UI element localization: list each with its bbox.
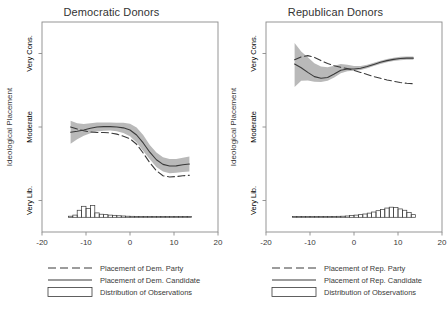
histogram-bar [68,216,72,217]
histogram-bar [134,216,138,217]
histogram-bar [174,217,178,218]
legend-svg-democratic: Placement of Dem. PartyPlacement of Dem.… [0,258,223,306]
histogram-bar [148,217,152,218]
histogram-bar [389,207,393,217]
histogram-bar [292,217,296,218]
histogram-bar [385,208,389,217]
histogram-bar [178,217,182,218]
histogram-bar [297,217,301,218]
histogram-bar [341,216,345,217]
x-tick-label: -20 [36,238,48,247]
histogram-bar [152,217,156,218]
y-tick-label: Very Cons. [249,35,258,72]
histogram-bar [143,217,147,218]
histogram-bar [354,215,358,217]
histogram-bar [350,216,354,218]
histogram-bar [165,217,169,218]
histogram-bar [358,215,362,218]
legend-democratic: Placement of Dem. PartyPlacement of Dem.… [0,258,223,306]
x-tick-label: 0 [128,238,133,247]
histogram-bar [363,214,367,217]
histogram-bar [90,205,94,217]
histogram-bar [77,210,81,217]
histogram-bar [86,209,90,218]
x-tick-label: 0 [352,238,357,247]
histogram-bar [139,217,143,218]
panel-democratic-donors: Democratic Donors Ideological PlacementV… [0,0,223,311]
histogram-bar [328,217,332,218]
histogram-bar [161,217,165,218]
legend-distribution-label: Distribution of Observations [324,288,416,297]
legend-candidate-label: Placement of Rep. Candidate [324,276,422,285]
histogram-bar [380,209,384,217]
histogram-bar [187,217,191,218]
histogram-bar [95,213,99,217]
histogram-bar [183,217,187,218]
x-tick-label: -10 [80,238,92,247]
legend-republican: Placement of Rep. PartyPlacement of Rep.… [224,258,447,306]
x-tick-label: 20 [214,238,223,247]
plot-area-democratic: Ideological PlacementVery Cons.ModerateV… [0,0,223,258]
histogram-bar [306,217,310,218]
confidence-band [295,43,414,87]
histogram-bar [117,216,121,218]
y-tick-label: Very Cons. [25,35,34,72]
histogram-bar [82,206,86,217]
histogram-bar [156,217,160,218]
histogram-bar [345,216,349,217]
histogram-bar [108,215,112,217]
x-tick-label: 10 [170,238,179,247]
x-tick-label: -20 [260,238,272,247]
histogram-bar [130,216,134,217]
histogram-bar [372,212,376,217]
legend-swatch-box [272,288,316,297]
legend-swatch-box [48,288,92,297]
histogram-bar [332,216,336,217]
histogram-bar [73,215,77,217]
y-tick-label: Very Lib. [25,186,34,215]
histogram-bar [314,217,318,218]
histogram-bar [376,211,380,218]
histogram-bar [367,213,371,217]
histogram-bar [121,216,125,217]
legend-party-label: Placement of Rep. Party [324,264,406,273]
histogram-bar [398,209,402,217]
panel-republican-donors: Republican Donors Ideological PlacementV… [224,0,447,311]
legend-distribution-label: Distribution of Observations [100,288,192,297]
histogram-bar [394,208,398,218]
histogram-bar [407,212,411,217]
histogram-bar [301,217,305,218]
histogram-bar [112,215,116,217]
y-axis-title: Ideological Placement [5,87,14,166]
figure-twin-panel-chart: Democratic Donors Ideological PlacementV… [0,0,447,311]
legend-candidate-label: Placement of Dem. Candidate [100,276,200,285]
y-tick-label: Moderate [25,111,34,143]
histogram-bar [402,210,406,217]
x-tick-label: -10 [304,238,316,247]
y-axis-title: Ideological Placement [229,87,238,166]
legend-party-label: Placement of Dem. Party [100,264,184,273]
y-tick-label: Moderate [249,111,258,143]
histogram-bar [336,216,340,217]
y-tick-label: Very Lib. [249,186,258,215]
histogram-bar [126,216,130,217]
histogram-bar [411,215,415,218]
histogram-bar [319,217,323,218]
histogram-bar [323,217,327,218]
x-tick-label: 10 [394,238,403,247]
histogram-bar [104,215,108,218]
histogram-bar [99,214,103,217]
legend-svg-republican: Placement of Rep. PartyPlacement of Rep.… [224,258,447,306]
histogram-bar [170,217,174,218]
histogram-bar [310,217,314,218]
plot-area-republican: Ideological PlacementVery Cons.ModerateV… [224,0,447,258]
x-tick-label: 20 [438,238,447,247]
